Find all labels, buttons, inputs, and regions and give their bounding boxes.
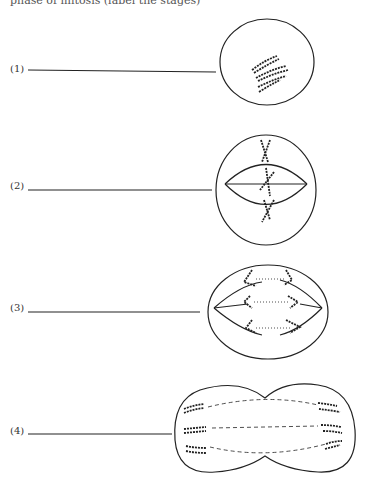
cell-anaphase — [208, 265, 328, 359]
cell-telophase — [175, 384, 355, 472]
answer-line-1[interactable] — [28, 70, 216, 72]
cell-prophase — [220, 19, 314, 105]
mitosis-diagram — [0, 0, 365, 481]
cell-metaphase — [216, 135, 316, 245]
